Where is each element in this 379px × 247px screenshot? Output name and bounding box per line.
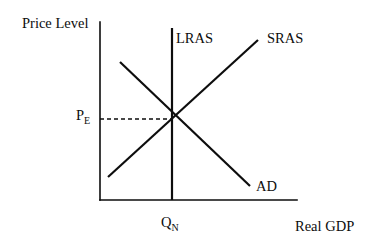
potential-output-base: Q [161,214,172,230]
potential-output-subscript: N [171,222,178,233]
equilibrium-price-tick-label: PE [76,107,90,126]
equilibrium-price-base: P [76,107,84,123]
lras-label: LRAS [176,30,213,46]
ad-as-diagram: Price Level Real GDP LRAS SRAS AD PE QN [0,0,379,247]
equilibrium-price-subscript: E [84,115,90,126]
y-axis-label: Price Level [22,15,88,31]
ad-label: AD [256,178,277,194]
sras-label: SRAS [267,30,303,46]
potential-output-tick-label: QN [161,214,179,233]
x-axis-label: Real GDP [295,218,354,234]
sras-curve [108,40,258,177]
ad-curve [120,62,250,186]
chart-canvas: Price Level Real GDP LRAS SRAS AD PE QN [0,0,379,247]
